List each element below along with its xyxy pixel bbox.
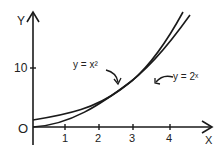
x-tick-label-3: 3 — [129, 133, 135, 144]
curve-two-to-x — [33, 15, 190, 120]
curve-label-x-squared: y = x² — [73, 60, 98, 70]
pointer-2x-icon — [156, 76, 173, 82]
x-tick-label-4: 4 — [166, 133, 172, 144]
y-tick-label-10: 10 — [14, 62, 27, 74]
curve-label-two-to-x: y = 2ˣ — [173, 72, 198, 82]
x-tick-label-2: 2 — [95, 133, 101, 144]
origin-label: O — [18, 122, 28, 135]
x-tick-label-1: 1 — [62, 133, 68, 144]
pointer-x2-icon — [106, 70, 118, 82]
y-axis-label: Y — [17, 15, 25, 27]
curve-x-squared — [33, 12, 183, 127]
x-axis-label: X — [205, 135, 212, 146]
